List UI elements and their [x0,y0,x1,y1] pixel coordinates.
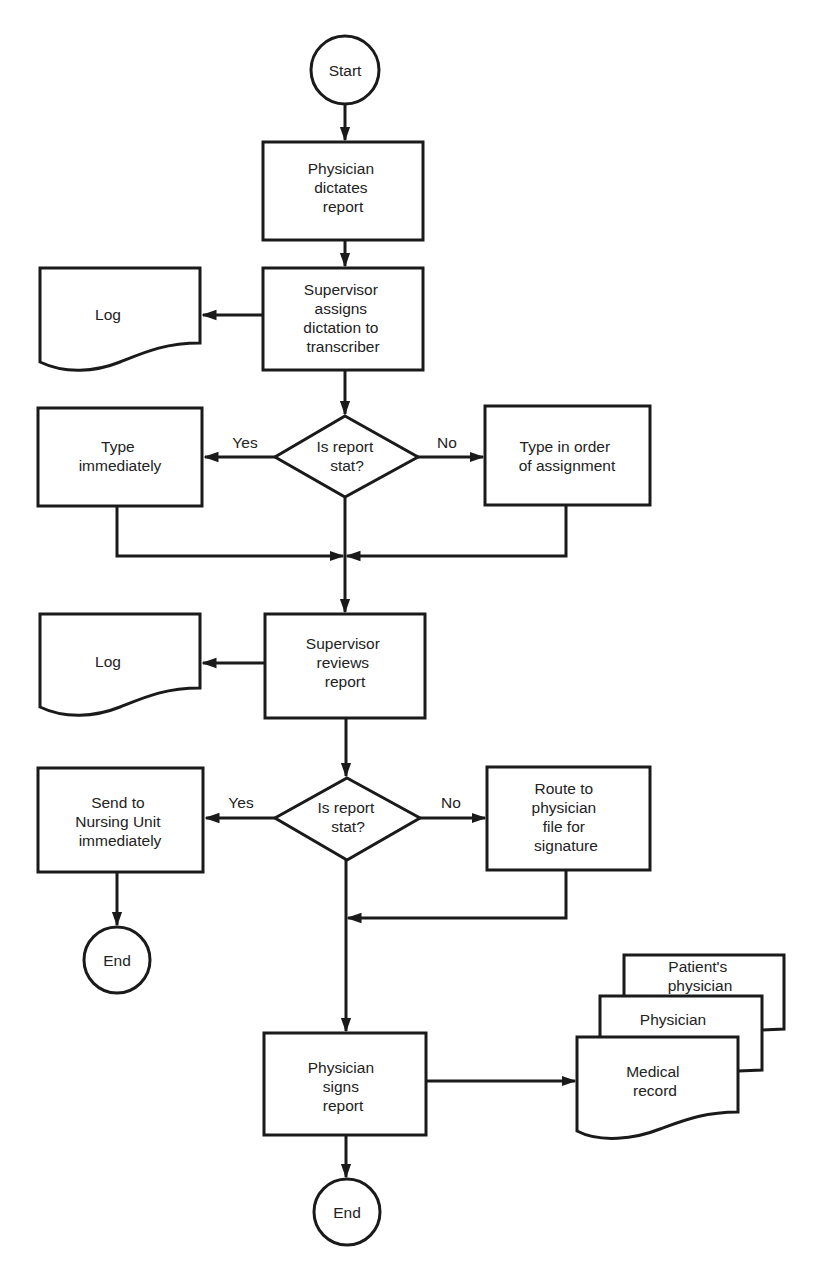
end-label: End [333,1204,361,1221]
node-text: signs [323,1078,359,1095]
svg-text:Start: Start [329,62,362,79]
node-text: file for [543,818,585,835]
start-terminator: Start [311,36,379,104]
node-text: physician [532,799,597,816]
process-type-in-order: Type in order of assignment [485,406,650,505]
node-text: Is report [316,438,374,455]
node-text: stat? [331,818,365,835]
node-text: Physician [308,160,374,177]
edge-type-order-to-merge [347,505,566,556]
node-text: dictates [314,179,368,196]
edge-label-no-1: No [437,434,457,451]
process-send-to-nursing-unit: Send to Nursing Unit immediately [38,768,203,872]
node-text: Physician [308,1059,374,1076]
decision-is-report-stat-1: Is report stat? [275,416,418,497]
process-type-immediately: Type immediately [38,408,202,506]
start-label: Start [329,62,362,79]
svg-text:Physician: Physician [640,1011,706,1028]
node-text: Log [95,653,121,670]
node-text: Type [101,438,135,455]
node-text: Route to [535,780,594,797]
node-text: Patient's [668,958,727,975]
node-text: of assignment [519,457,616,474]
end-label: End [103,952,131,969]
document-log-1: Log [40,268,200,370]
node-text: Log [95,306,121,323]
process-route-to-physician-file: Route to physician file for signature [487,767,650,870]
edge-label-yes-1: Yes [232,434,258,451]
node-text: Is report [317,799,375,816]
decision-is-report-stat-2: Is report stat? [275,778,420,860]
end-terminator-1: End [84,927,150,993]
svg-text:Log: Log [95,306,121,323]
node-text: Supervisor [306,635,380,652]
node-text: physician [668,977,733,994]
process-supervisor-assigns: Supervisor assigns dictation to transcri… [263,268,423,370]
node-text: report [323,198,364,215]
node-text: signature [534,837,598,854]
node-text: record [633,1082,677,1099]
edge-route-to-merge [348,870,566,918]
edge-label-no-2: No [441,794,461,811]
edge-label-yes-2: Yes [228,794,254,811]
node-text: report [325,673,366,690]
node-text: immediately [79,832,162,849]
svg-text:End: End [103,952,131,969]
edge-type-now-to-merge [117,506,343,556]
node-text: Send to [91,794,144,811]
svg-text:Log: Log [95,653,121,670]
document-log-2: Log [40,614,200,715]
node-text: stat? [330,457,364,474]
flowchart: Start Physician dictates report Supervis… [0,0,820,1279]
node-text: reviews [317,654,370,671]
node-text: report [323,1097,364,1114]
process-physician-dictates: Physician dictates report [263,142,423,240]
node-text: Supervisor [304,281,378,298]
node-text: Nursing Unit [75,813,161,830]
node-text: immediately [79,457,162,474]
node-text: assigns [315,300,368,317]
document-medical-record: Medical record [577,1037,738,1138]
process-physician-signs: Physician signs report [264,1033,426,1135]
node-text: dictation to [303,319,378,336]
end-terminator-2: End [314,1179,380,1245]
svg-text:End: End [333,1204,361,1221]
node-text: Type in order [520,438,610,455]
node-text: Physician [640,1011,706,1028]
node-text: transcriber [306,338,379,355]
node-text: Medical [626,1063,679,1080]
process-supervisor-reviews: Supervisor reviews report [265,614,425,718]
